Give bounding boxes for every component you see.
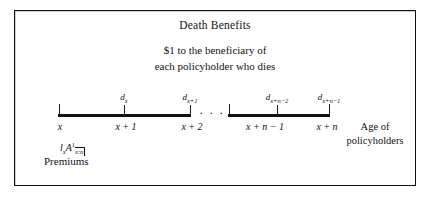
axis-caption: Age of policyholders xyxy=(334,120,416,148)
figure-root: Death Benefits $1 to the beneficiary of … xyxy=(0,0,430,199)
figure-title: Death Benefits xyxy=(0,19,430,31)
figure-subtitle-line1: $1 to the beneficiary of xyxy=(0,44,430,56)
axis-caption-line1: Age of xyxy=(361,121,390,132)
premium-label: Premiums xyxy=(44,155,89,167)
axis-caption-line2: policyholders xyxy=(334,134,416,148)
figure-subtitle-line2: each policyholder who dies xyxy=(0,60,430,72)
